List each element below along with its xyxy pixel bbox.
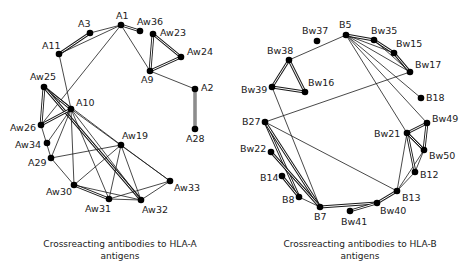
hla-a-crossreactivity-graph: A1A3A11Aw36Aw23Aw24A9A2A28Aw25A10Aw26Aw3…	[10, 10, 214, 215]
node-A29	[48, 155, 55, 162]
node-A3	[87, 30, 94, 37]
node-label-Bw41: Bw41	[341, 216, 367, 227]
edge-inner-Bw40-B13	[377, 191, 397, 203]
node-label-A3: A3	[78, 18, 91, 29]
node-label-Aw33: Aw33	[174, 182, 200, 193]
node-B13	[394, 188, 401, 195]
node-label-Bw15: Bw15	[396, 38, 422, 49]
node-Bw49	[424, 120, 431, 127]
node-label-Aw26: Aw26	[10, 122, 36, 133]
node-B14	[279, 173, 286, 180]
node-Bw17	[407, 69, 414, 76]
node-Bw41	[347, 208, 354, 215]
node-label-A2: A2	[201, 82, 214, 93]
node-Bw21	[404, 130, 411, 137]
node-A1	[118, 22, 125, 29]
node-B7	[317, 204, 324, 211]
node-Bw38	[286, 57, 293, 64]
node-B5	[343, 32, 350, 39]
node-Bw35	[371, 37, 378, 44]
node-Bw50	[421, 147, 428, 154]
node-Aw31	[106, 196, 113, 203]
edge-A29-Aw30	[51, 158, 74, 185]
node-Aw33	[167, 178, 174, 185]
edge-B5-Bw15	[346, 35, 394, 53]
node-Bw15	[391, 50, 398, 57]
node-label-Aw23: Aw23	[160, 27, 186, 38]
edge-A9-A2	[150, 71, 195, 89]
edge-A29-Aw19	[51, 145, 121, 158]
edge-inner-Bw38-Bw16	[289, 60, 305, 92]
node-Aw34	[44, 140, 51, 147]
node-Bw16	[302, 89, 309, 96]
hla-b-caption: Crossreacting antibodies to HLA-B antige…	[265, 238, 455, 262]
node-A11	[56, 51, 63, 58]
node-B18	[418, 95, 425, 102]
node-label-Aw32: Aw32	[142, 204, 168, 215]
hla-b-caption-line1: Crossreacting antibodies to HLA-B	[265, 238, 455, 250]
node-label-A29: A29	[28, 157, 47, 168]
node-B27	[262, 119, 269, 126]
node-Aw32	[138, 197, 145, 204]
node-label-Aw24: Aw24	[187, 46, 213, 57]
node-label-A9: A9	[141, 74, 154, 85]
edge-inner-Bw39-Bw16	[272, 87, 305, 92]
edge-A1-A9	[121, 25, 150, 71]
node-label-Bw39: Bw39	[241, 84, 267, 95]
node-Aw23	[150, 31, 157, 38]
edge-inner-A10-Aw26	[41, 109, 71, 125]
node-label-Aw25: Aw25	[30, 71, 56, 82]
node-Aw26	[38, 122, 45, 129]
node-label-Bw17: Bw17	[415, 59, 441, 70]
edge-Aw19-Aw32	[121, 145, 141, 200]
node-label-Bw37: Bw37	[302, 25, 328, 36]
node-label-B27: B27	[242, 116, 261, 127]
edge-A1-A11	[59, 25, 121, 54]
node-Aw25	[41, 84, 48, 91]
node-Aw19	[118, 142, 125, 149]
node-label-Bw50: Bw50	[429, 150, 455, 161]
edge-A1-A3	[90, 25, 121, 33]
node-label-B5: B5	[339, 19, 352, 30]
edge-Aw32-Aw33	[141, 181, 170, 200]
hla-a-caption-line2: antigens	[30, 250, 210, 262]
edge-inner-A3-A11	[59, 33, 90, 54]
hla-a-caption-line1: Crossreacting antibodies to HLA-A	[30, 238, 210, 250]
node-label-B8: B8	[282, 194, 295, 205]
hla-b-caption-line2: antigens	[265, 250, 455, 262]
node-label-Aw31: Aw31	[85, 203, 111, 214]
node-label-A10: A10	[76, 97, 95, 108]
node-label-Aw36: Aw36	[137, 16, 163, 27]
node-Bw22	[268, 149, 275, 156]
node-label-B12: B12	[420, 169, 439, 180]
node-label-Aw30: Aw30	[46, 186, 72, 197]
node-label-Bw22: Bw22	[240, 143, 266, 154]
node-label-Aw34: Aw34	[15, 139, 41, 150]
node-B8	[296, 194, 303, 201]
node-label-B14: B14	[260, 172, 279, 183]
crossreactivity-diagram: A1A3A11Aw36Aw23Aw24A9A2A28Aw25A10Aw26Aw3…	[0, 0, 468, 263]
edge-inner-Bw21-Bw49	[407, 123, 427, 133]
hla-b-crossreactivity-graph: B5Bw37Bw35Bw15Bw17B18Bw38Bw16Bw39B27Bw22…	[240, 19, 458, 227]
node-A10	[68, 106, 75, 113]
node-label-Bw40: Bw40	[380, 205, 406, 216]
node-label-B7: B7	[314, 211, 327, 222]
node-label-A1: A1	[116, 10, 129, 21]
node-Aw36	[137, 28, 144, 35]
node-label-Bw21: Bw21	[374, 128, 400, 139]
edge-Aw19-Aw33	[121, 145, 170, 181]
edge-inner-Bw15-Bw17	[394, 53, 410, 72]
hla-a-edges	[41, 25, 195, 200]
node-A28	[192, 126, 199, 133]
node-label-Bw35: Bw35	[371, 25, 397, 36]
node-Bw37	[314, 38, 321, 45]
edge-inner-Bw38-Bw39	[272, 60, 289, 87]
node-Bw39	[269, 84, 276, 91]
node-A2	[192, 86, 199, 93]
node-label-B13: B13	[402, 192, 421, 203]
hla-a-nodes: A1A3A11Aw36Aw23Aw24A9A2A28Aw25A10Aw26Aw3…	[10, 10, 214, 215]
node-label-Bw38: Bw38	[267, 45, 293, 56]
hla-a-caption: Crossreacting antibodies to HLA-A antige…	[30, 238, 210, 262]
node-label-Bw16: Bw16	[308, 77, 334, 88]
node-label-Bw49: Bw49	[432, 113, 458, 124]
